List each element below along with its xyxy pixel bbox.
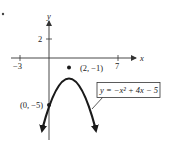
equation-leader-line: [92, 97, 103, 109]
parabola-graph: x y −3 7 2 (2, −1) (0, −5) y = −x² + 4x …: [0, 0, 171, 147]
x-tick-label-neg3: −3: [13, 61, 22, 71]
vertex-point: [67, 66, 71, 70]
parabola-curve: [43, 79, 96, 129]
curve-arrow-right: [95, 125, 96, 129]
y-intercept-point: [47, 103, 51, 107]
x-tick-label-7: 7: [115, 61, 119, 71]
bullet-dot: [2, 13, 4, 15]
y-tick-label-2: 2: [38, 34, 42, 44]
vertex-label: (2, −1): [80, 63, 103, 73]
equation-label: y = −x² + 4x − 5: [99, 85, 158, 95]
x-axis-label: x: [139, 53, 144, 63]
y-axis-label: y: [46, 11, 51, 21]
y-intercept-label: (0, −5): [20, 100, 43, 110]
curve-arrow-left: [42, 125, 43, 129]
